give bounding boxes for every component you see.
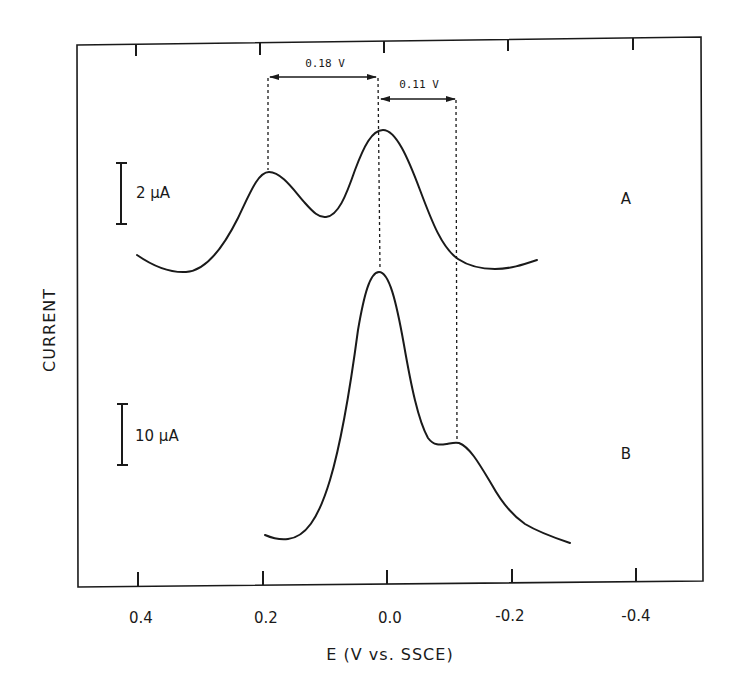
- curve-b: [265, 272, 570, 543]
- scale-label-b: 10 μA: [135, 427, 179, 445]
- guide-lines: [268, 78, 457, 441]
- x-tick-0.2: 0.2: [254, 609, 278, 627]
- x-axis-title: E (V vs. SSCE): [326, 645, 453, 664]
- x-tick-neg0.2: -0.2: [495, 607, 524, 625]
- scale-bar-a: [116, 163, 127, 224]
- curve-label-a: A: [621, 190, 632, 208]
- annotation-0.11V: 0.11 V: [399, 78, 439, 91]
- curve-label-b: B: [621, 445, 631, 463]
- curve-a: [137, 130, 537, 272]
- plot-frame: [77, 37, 703, 587]
- scale-label-a: 2 μA: [136, 184, 171, 202]
- bottom-ticks: [138, 568, 636, 586]
- y-axis-title: CURRENT: [40, 288, 59, 372]
- scale-bar-b: [117, 404, 128, 465]
- annotation-0.18V: 0.18 V: [305, 57, 345, 70]
- x-tick-0.4: 0.4: [129, 609, 153, 627]
- x-tick-0.0: 0.0: [378, 609, 402, 627]
- voltammogram-chart: 0.4 0.2 0.0 -0.2 -0.4 E (V vs. SSCE) CUR…: [0, 0, 731, 692]
- x-tick-neg0.4: -0.4: [621, 607, 650, 625]
